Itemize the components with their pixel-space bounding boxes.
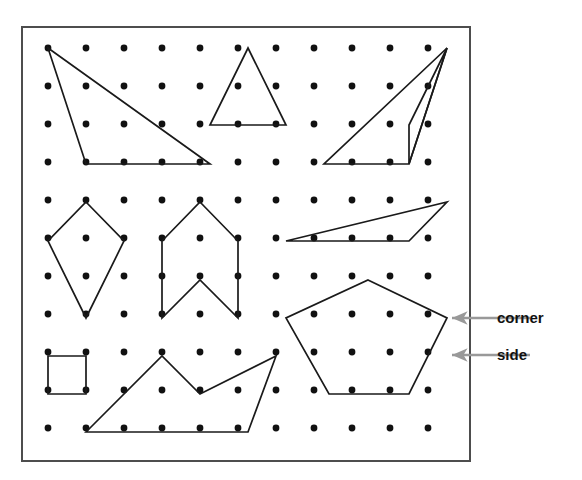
peg-dot [197,311,204,318]
peg-dot [197,425,204,432]
peg-dot [121,83,128,90]
peg-dot [159,349,166,356]
geoboard-canvas: cornerside [0,0,582,480]
peg-dot [159,197,166,204]
peg-dot [159,83,166,90]
peg-dot [273,197,280,204]
peg-dot [83,349,90,356]
peg-dot [235,121,242,128]
peg-dot [83,121,90,128]
peg-dot [235,45,242,52]
peg-dot [45,121,52,128]
peg-dot [273,349,280,356]
peg-dot [197,45,204,52]
peg-dot [121,121,128,128]
peg-dot [45,83,52,90]
peg-dot [197,349,204,356]
peg-dot [387,425,394,432]
peg-dot [159,121,166,128]
peg-dot [387,387,394,394]
peg-dot [45,197,52,204]
peg-dot [121,425,128,432]
peg-dot [197,235,204,242]
peg-dot [273,235,280,242]
peg-dot [159,425,166,432]
peg-dot [425,273,432,280]
peg-dot [83,45,90,52]
peg-dot [311,159,318,166]
peg-dot [387,349,394,356]
peg-dot [387,121,394,128]
corner-label: corner [497,309,544,326]
peg-dot [273,83,280,90]
peg-dot [121,197,128,204]
peg-dot [425,311,432,318]
side-label: side [497,346,527,363]
peg-dot [425,159,432,166]
peg-dot [45,311,52,318]
peg-dot [45,349,52,356]
peg-dot [387,273,394,280]
peg-dot [425,387,432,394]
peg-dot [83,273,90,280]
peg-dot [387,311,394,318]
peg-dot [235,197,242,204]
peg-dot [387,197,394,204]
peg-dot [235,349,242,356]
peg-dot [83,83,90,90]
peg-dot [311,197,318,204]
peg-dot [311,83,318,90]
peg-dot [273,387,280,394]
peg-dot [273,311,280,318]
peg-dot [349,425,356,432]
geoboard-figure: cornerside [0,0,582,480]
peg-dot [121,311,128,318]
peg-dot [121,45,128,52]
peg-dot [121,273,128,280]
peg-dot [197,121,204,128]
peg-dot [387,45,394,52]
peg-dot [273,425,280,432]
peg-dot [349,45,356,52]
peg-dot [45,273,52,280]
peg-dot [197,83,204,90]
peg-dot [45,159,52,166]
peg-dot [425,425,432,432]
peg-dot [159,387,166,394]
peg-dot [235,83,242,90]
peg-dot [159,45,166,52]
peg-dot [311,273,318,280]
peg-dot [387,83,394,90]
peg-dot [273,273,280,280]
peg-dot [121,349,128,356]
peg-dot [235,425,242,432]
peg-dot [425,235,432,242]
peg-dot [425,197,432,204]
peg-dot [311,425,318,432]
peg-dot [273,121,280,128]
peg-dot [83,235,90,242]
peg-dot [349,121,356,128]
peg-dot [349,273,356,280]
peg-dot [425,45,432,52]
peg-dot [349,349,356,356]
peg-dot [197,273,204,280]
peg-dot [45,425,52,432]
peg-dot [311,121,318,128]
peg-dot [235,159,242,166]
peg-dot [349,387,356,394]
peg-dot [235,387,242,394]
peg-dot [425,121,432,128]
peg-dot [311,311,318,318]
peg-dot [311,387,318,394]
peg-dot [349,83,356,90]
peg-dot [273,159,280,166]
peg-dot [311,45,318,52]
peg-dot [273,45,280,52]
peg-dot [311,349,318,356]
peg-dot [349,197,356,204]
peg-dot [349,311,356,318]
